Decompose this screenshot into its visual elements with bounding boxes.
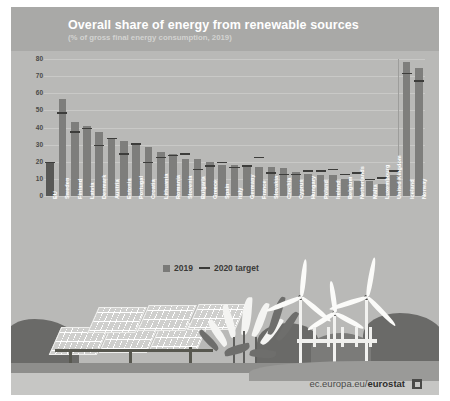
target-marker-germany: [242, 165, 252, 167]
x-label-slovenia: Slovenia: [187, 176, 193, 199]
screenshot-root: Overall share of energy from renewable s…: [0, 0, 450, 401]
target-marker-portugal: [131, 143, 141, 145]
target-marker-norway: [414, 80, 424, 82]
x-label-czechia: Czechia: [286, 178, 292, 200]
page-title: Overall share of energy from renewable s…: [68, 18, 359, 32]
x-label-ireland: Ireland: [335, 180, 341, 199]
target-marker-finland: [70, 131, 80, 133]
x-label-latvia: Latvia: [89, 183, 95, 199]
x-label-croatia: Croatia: [150, 179, 156, 199]
target-marker-sweden: [57, 112, 67, 114]
footer-url-brand: eurostat: [368, 378, 405, 389]
target-marker-romania: [168, 155, 178, 157]
target-marker-bulgaria: [193, 169, 203, 171]
x-label-estonia: Estonia: [126, 178, 132, 199]
target-marker-spain: [217, 162, 227, 164]
x-label-portugal: Portugal: [138, 176, 144, 199]
x-label-spain: Spain: [224, 184, 230, 199]
y-axis-tick-label: 70: [17, 72, 43, 79]
grid-line: [44, 128, 425, 129]
poster-header: Overall share of energy from renewable s…: [11, 7, 439, 51]
x-label-france: France: [261, 180, 267, 199]
target-marker-denmark: [94, 145, 104, 147]
target-marker-france: [254, 157, 264, 159]
target-marker-hungary: [303, 170, 313, 172]
x-label-norway: Norway: [421, 178, 427, 199]
grid-line: [44, 110, 425, 111]
target-marker-slovenia: [180, 153, 190, 155]
target-marker-belgium: [340, 174, 350, 176]
x-label-poland: Poland: [323, 180, 329, 199]
grid-line: [44, 76, 425, 77]
poster-footer: ec.europa.eu/eurostat: [11, 373, 439, 395]
bar-iceland: [403, 62, 411, 196]
target-marker-greece: [205, 165, 215, 167]
x-label-netherlands: Netherlands: [359, 166, 365, 199]
y-axis-tick-label: 50: [17, 106, 43, 113]
footer-url-prefix: ec.europa.eu/: [309, 378, 367, 389]
target-marker-slovakia: [266, 172, 276, 174]
target-marker-ireland: [328, 169, 338, 171]
solar-panel-rail: [55, 349, 213, 352]
x-label-slovakia: Slovakia: [273, 176, 279, 199]
x-label-united-kingdom: United Kingdom: [396, 155, 402, 199]
bar-norway: [415, 68, 423, 196]
x-label-malta: Malta: [372, 184, 378, 199]
target-marker-austria: [107, 138, 117, 140]
x-label-finland: Finland: [77, 179, 83, 199]
y-axis-tick-label: 80: [17, 55, 43, 62]
x-label-eu: EU: [52, 191, 58, 199]
y-axis-tick-label: 60: [17, 89, 43, 96]
x-label-greece: Greece: [212, 180, 218, 199]
wind-turbine-icon: [337, 271, 397, 367]
target-marker-croatia: [143, 162, 153, 164]
grid-line: [44, 93, 425, 94]
target-marker-poland: [316, 170, 326, 172]
y-axis-tick-label: 10: [17, 175, 43, 182]
target-marker-lithuania: [156, 157, 166, 159]
x-label-luxembourg: Luxembourg: [384, 165, 390, 199]
x-label-cyprus: Cyprus: [298, 179, 304, 199]
page-subtitle: (% of gross final energy consumption, 20…: [68, 33, 232, 42]
x-label-belgium: Belgium: [347, 177, 353, 199]
y-axis-tick-label: 40: [17, 124, 43, 131]
target-marker-cyprus: [291, 174, 301, 176]
target-marker-estonia: [119, 153, 129, 155]
target-marker-latvia: [82, 128, 92, 130]
grid-line: [44, 59, 425, 60]
target-marker-czechia: [279, 174, 289, 176]
eurostat-logo-icon: [412, 379, 422, 389]
x-label-iceland: Iceland: [409, 179, 415, 199]
x-label-italy: Italy: [237, 188, 243, 199]
x-label-romania: Romania: [175, 175, 181, 199]
x-label-hungary: Hungary: [310, 176, 316, 199]
x-label-germany: Germany: [249, 174, 255, 199]
footer-url[interactable]: ec.europa.eu/eurostat: [309, 378, 405, 389]
x-label-bulgaria: Bulgaria: [200, 176, 206, 199]
y-axis-tick-label: 30: [17, 141, 43, 148]
target-marker-eu: [45, 162, 55, 164]
target-marker-italy: [229, 167, 239, 169]
y-axis-tick-label: 20: [17, 158, 43, 165]
x-label-lithuania: Lithuania: [163, 174, 169, 199]
x-label-sweden: Sweden: [64, 178, 70, 199]
infographic-poster: Overall share of energy from renewable s…: [11, 7, 439, 395]
y-axis-tick-label: 0: [17, 192, 43, 199]
target-marker-malta: [365, 179, 375, 181]
x-label-austria: Austria: [114, 179, 120, 199]
x-label-denmark: Denmark: [101, 175, 107, 199]
target-marker-iceland: [402, 73, 412, 75]
legend-line-icon: [199, 267, 210, 269]
